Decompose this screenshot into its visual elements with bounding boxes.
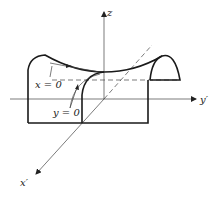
x-label: x′ [20, 177, 29, 188]
y0-curve [70, 74, 100, 108]
y0-arrow-icon [75, 84, 79, 90]
saddle-diagram: z y′ x′ x = 0 y = 0 [0, 0, 219, 197]
x0-label: x = 0 [35, 79, 62, 90]
right-arch [150, 56, 162, 80]
y0-label: y = 0 [52, 107, 80, 118]
y-label: y′ [199, 94, 209, 105]
z-label: z [106, 7, 113, 18]
x0-pointer [50, 66, 52, 77]
x0-curve [50, 63, 100, 72]
